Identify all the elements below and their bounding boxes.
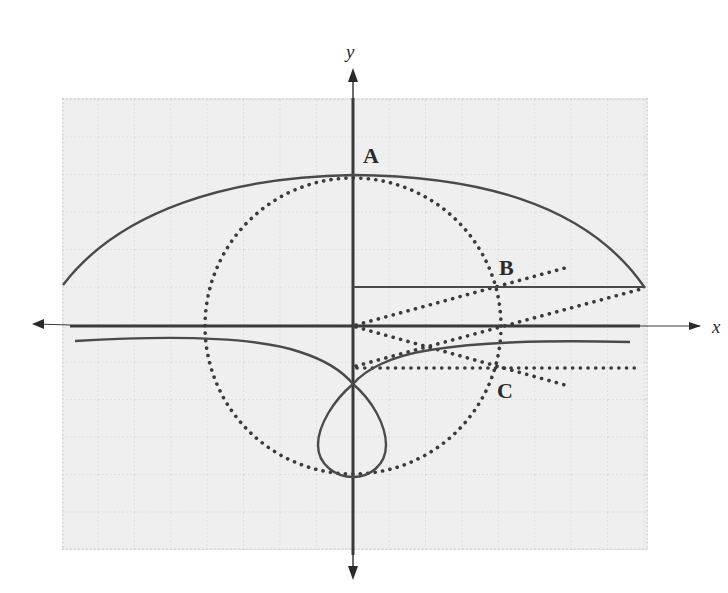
point-label-b: B (499, 255, 514, 280)
y-axis-down-arrow-icon (348, 566, 358, 580)
x-axis-left-arrow-icon (32, 319, 44, 329)
x-axis-label: x (711, 316, 721, 337)
point-label-c: C (497, 378, 513, 403)
point-label-a: A (363, 143, 379, 168)
y-axis-label: y (344, 41, 355, 62)
y-axis-up-arrow-icon (348, 68, 358, 82)
conchoid-diagram: A B C x y (0, 0, 728, 593)
